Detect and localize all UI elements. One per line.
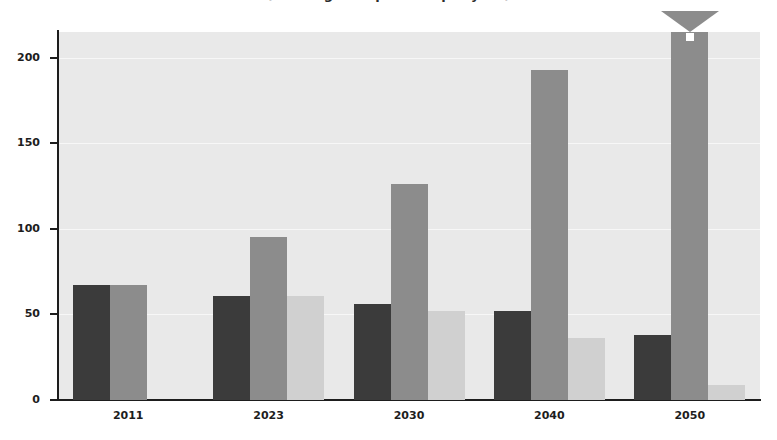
arrow-notch: [686, 33, 694, 41]
y-tick-mark: [50, 313, 58, 315]
bar: [568, 338, 605, 400]
x-tick-label: 2030: [339, 409, 479, 422]
y-tick-mark: [50, 399, 58, 401]
x-tick-label: 2023: [198, 409, 338, 422]
y-tick-label: 100: [17, 222, 40, 235]
x-tick-label: 2011: [58, 409, 198, 422]
y-tick-mark: [50, 228, 58, 230]
bar: [110, 285, 147, 400]
x-tick-label: 2040: [479, 409, 619, 422]
bar-group: [73, 32, 184, 400]
y-tick-mark: [50, 57, 58, 59]
bar: [73, 285, 110, 400]
bar: [671, 32, 708, 400]
y-tick-label: 200: [17, 51, 40, 64]
bar: [250, 237, 287, 400]
bar-group: [213, 32, 324, 400]
bar-group: [634, 32, 745, 400]
chart-title: (in milligrams per litre per year): [0, 0, 777, 2]
bar-group: [354, 32, 465, 400]
bar: [213, 296, 250, 400]
bar: [287, 296, 324, 400]
bar: [531, 70, 568, 400]
bar: [494, 311, 531, 400]
bar: [428, 311, 465, 400]
bar: [391, 184, 428, 400]
bar: [708, 385, 745, 400]
y-axis-spine: [57, 30, 59, 401]
bar-group: [494, 32, 605, 400]
bar: [634, 335, 671, 400]
bar-chart: (in milligrams per litre per year) 05010…: [0, 0, 777, 440]
y-tick-label: 0: [32, 393, 40, 406]
x-tick-label: 2050: [620, 409, 760, 422]
y-tick-mark: [50, 142, 58, 144]
bar: [354, 304, 391, 400]
arrow-head: [661, 11, 719, 32]
y-tick-label: 50: [25, 307, 40, 320]
y-tick-label: 150: [17, 136, 40, 149]
